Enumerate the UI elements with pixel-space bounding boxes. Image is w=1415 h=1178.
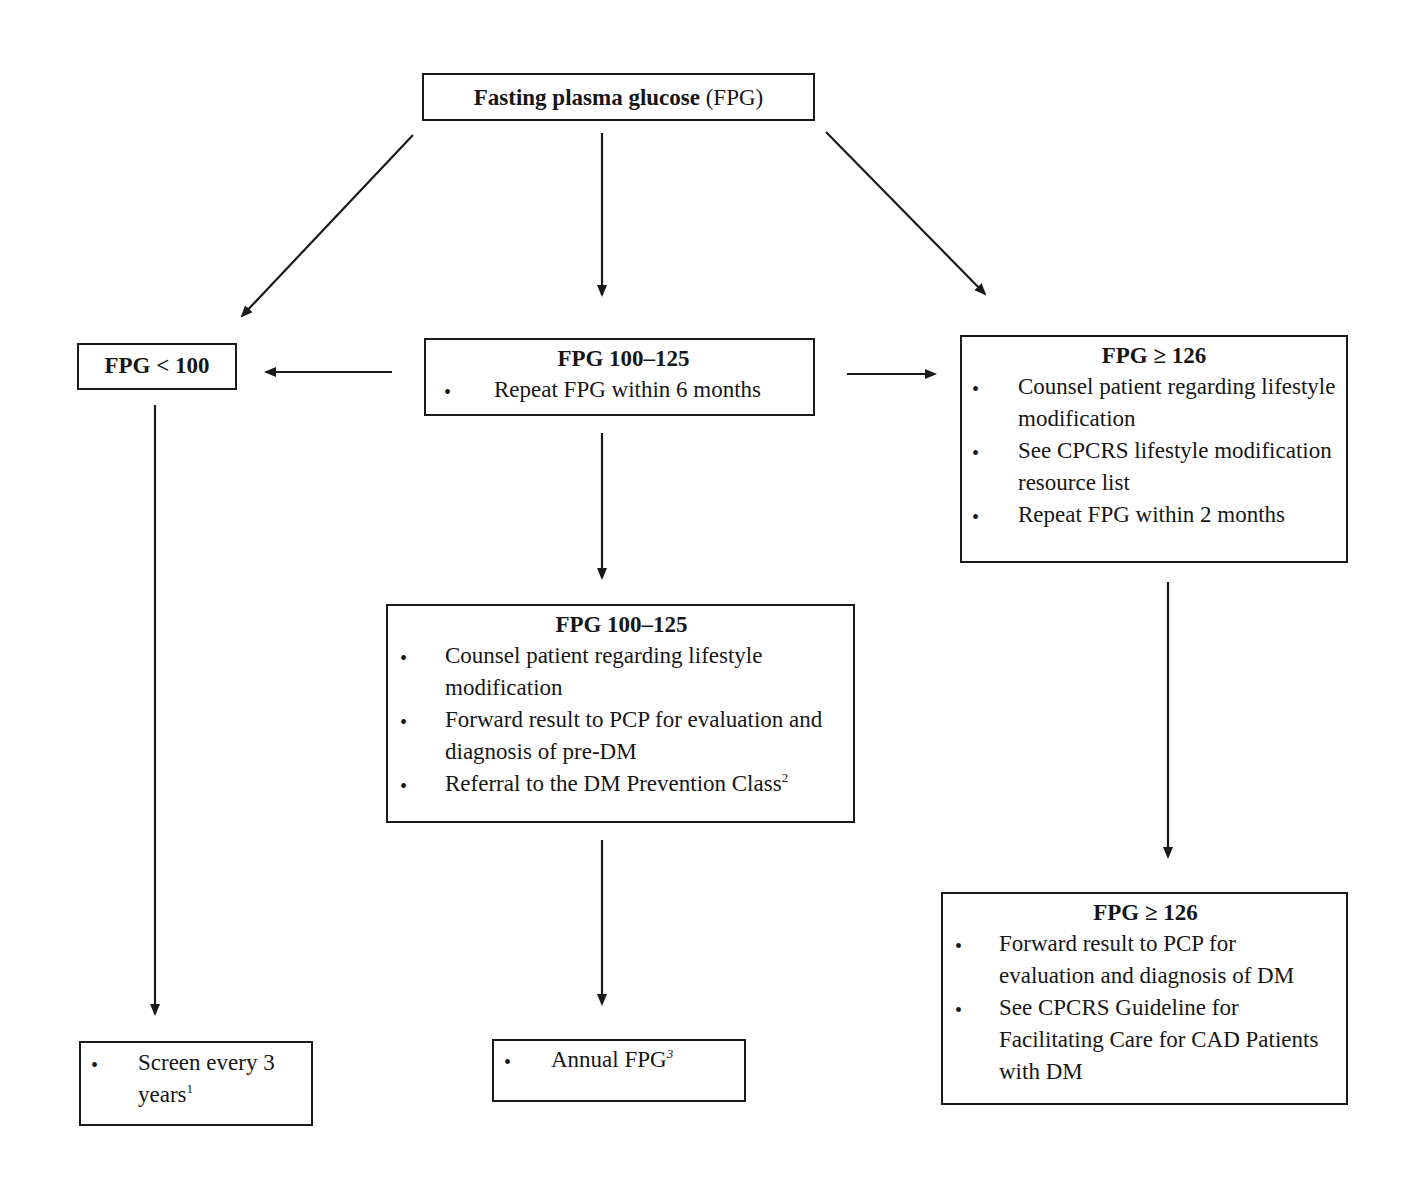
bullet-icon: • bbox=[400, 770, 407, 802]
box-fpg-high-confirmed: FPG ≥ 126 • Forward result to PCP for ev… bbox=[941, 892, 1348, 1105]
bullet-icon: • bbox=[972, 373, 979, 405]
list-item-text: Forward result to PCP for evaluation and… bbox=[445, 707, 822, 764]
footnote-ref-1: 1 bbox=[187, 1081, 194, 1096]
mid-confirmed-list: • Counsel patient regarding lifestyle mo… bbox=[400, 640, 843, 800]
low-outcome-list: • Screen every 3 years1 bbox=[91, 1047, 301, 1111]
high-confirmed-list: • Forward result to PCP for evaluation a… bbox=[955, 928, 1336, 1088]
list-item: • See CPCRS Guideline for Facilitating C… bbox=[999, 992, 1336, 1088]
mid-confirmed-title: FPG 100–125 bbox=[400, 610, 843, 640]
mid-list: • Repeat FPG within 6 months bbox=[444, 374, 803, 406]
list-item: • Annual FPG3 bbox=[551, 1044, 734, 1076]
list-item-text: Counsel patient regarding lifestyle modi… bbox=[1018, 374, 1335, 431]
bullet-icon: • bbox=[504, 1046, 511, 1078]
arrow-root-to-high bbox=[826, 132, 985, 294]
box-fpg-mid: FPG 100–125 • Repeat FPG within 6 months bbox=[424, 338, 815, 416]
list-item: • Repeat FPG within 2 months bbox=[1018, 499, 1336, 531]
mid-title: FPG 100–125 bbox=[444, 344, 803, 374]
box-mid-outcome: • Annual FPG3 bbox=[492, 1039, 746, 1102]
list-item: • Screen every 3 years1 bbox=[138, 1047, 301, 1111]
low-title: FPG < 100 bbox=[79, 351, 235, 381]
list-item: • See CPCRS lifestyle modification resou… bbox=[1018, 435, 1336, 499]
root-box-fasting-plasma-glucose: Fasting plasma glucose (FPG) bbox=[422, 73, 815, 121]
box-fpg-mid-confirmed: FPG 100–125 • Counsel patient regarding … bbox=[386, 604, 855, 823]
arrow-root-to-low bbox=[242, 135, 413, 316]
footnote-ref-3: 3 bbox=[667, 1046, 674, 1061]
footnote-ref-2: 2 bbox=[782, 770, 789, 785]
box-fpg-high: FPG ≥ 126 • Counsel patient regarding li… bbox=[960, 335, 1348, 563]
list-item-text: See CPCRS Guideline for Facilitating Car… bbox=[999, 995, 1318, 1084]
bullet-icon: • bbox=[955, 994, 962, 1026]
list-item-text: Repeat FPG within 6 months bbox=[494, 377, 761, 402]
list-item: • Referral to the DM Prevention Class2 bbox=[445, 768, 843, 800]
root-title-abbrev: (FPG) bbox=[700, 85, 763, 110]
bullet-icon: • bbox=[972, 437, 979, 469]
list-item: • Counsel patient regarding lifestyle mo… bbox=[445, 640, 843, 704]
bullet-icon: • bbox=[444, 376, 451, 408]
bullet-icon: • bbox=[400, 706, 407, 738]
list-item-text: Repeat FPG within 2 months bbox=[1018, 502, 1285, 527]
box-fpg-low: FPG < 100 bbox=[77, 343, 237, 390]
bullet-icon: • bbox=[955, 930, 962, 962]
bullet-icon: • bbox=[400, 642, 407, 674]
root-title-bold: Fasting plasma glucose bbox=[474, 85, 700, 110]
list-item-text: Annual FPG bbox=[551, 1047, 667, 1072]
box-low-outcome: • Screen every 3 years1 bbox=[79, 1041, 313, 1126]
high-list: • Counsel patient regarding lifestyle mo… bbox=[972, 371, 1336, 531]
high-confirmed-title: FPG ≥ 126 bbox=[955, 898, 1336, 928]
list-item: • Counsel patient regarding lifestyle mo… bbox=[1018, 371, 1336, 435]
list-item: • Repeat FPG within 6 months bbox=[444, 374, 803, 406]
list-item-text: Counsel patient regarding lifestyle modi… bbox=[445, 643, 762, 700]
bullet-icon: • bbox=[91, 1049, 98, 1081]
mid-outcome-list: • Annual FPG3 bbox=[504, 1044, 734, 1076]
high-title: FPG ≥ 126 bbox=[972, 341, 1336, 371]
list-item-text: See CPCRS lifestyle modification resourc… bbox=[1018, 438, 1332, 495]
list-item: • Forward result to PCP for evaluation a… bbox=[999, 928, 1336, 992]
bullet-icon: • bbox=[972, 501, 979, 533]
list-item-text: Screen every 3 years bbox=[138, 1050, 275, 1107]
list-item: • Forward result to PCP for evaluation a… bbox=[445, 704, 843, 768]
list-item-text: Referral to the DM Prevention Class bbox=[445, 771, 782, 796]
list-item-text: Forward result to PCP for evaluation and… bbox=[999, 931, 1294, 988]
root-title: Fasting plasma glucose (FPG) bbox=[424, 83, 813, 113]
